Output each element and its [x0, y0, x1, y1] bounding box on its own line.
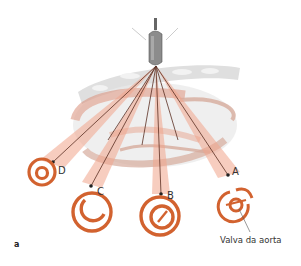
- view-label-c: C: [97, 187, 104, 197]
- transducer-probe-icon: [132, 18, 178, 65]
- panel-label: a: [14, 240, 19, 249]
- view-d-ring: [29, 159, 55, 185]
- view-label-d: D: [58, 166, 66, 176]
- view-label-b: B: [167, 191, 174, 201]
- echocardiography-diagram: [0, 0, 301, 266]
- aortic-valve-annotation: Valva da aorta: [220, 236, 281, 245]
- view-a-ring: [218, 189, 252, 222]
- view-label-a: A: [232, 167, 239, 177]
- view-b-ring: [141, 197, 179, 235]
- view-c-ring: [73, 193, 111, 231]
